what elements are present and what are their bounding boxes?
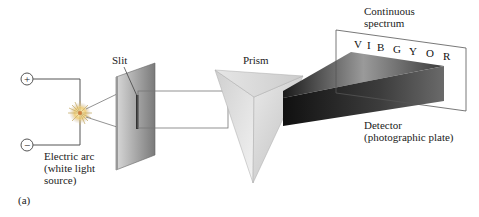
spectroscope-diagram: + − bbox=[0, 0, 479, 217]
letter-red: R bbox=[443, 50, 451, 62]
arc-label-line3: source) bbox=[44, 174, 77, 187]
panel-label: (a) bbox=[18, 194, 31, 207]
letter-blue: B bbox=[377, 41, 385, 53]
arc-label-line1: Electric arc bbox=[44, 150, 94, 162]
slit-label: Slit bbox=[112, 54, 127, 66]
letter-yellow: Y bbox=[409, 45, 418, 57]
spectrum-label-line1: Continuous bbox=[364, 5, 415, 17]
detector-label-line1: Detector bbox=[364, 119, 402, 131]
letter-green: G bbox=[393, 43, 402, 55]
plus-sign: + bbox=[24, 73, 30, 85]
dispersed-spectrum-beam bbox=[283, 52, 444, 126]
electric-arc-icon bbox=[68, 101, 92, 125]
spectrum-label-line2: spectrum bbox=[364, 17, 405, 29]
letter-violet: V bbox=[354, 38, 363, 50]
minus-sign: − bbox=[24, 139, 30, 151]
diagram-canvas: + − bbox=[0, 0, 479, 217]
slit-plate bbox=[116, 63, 155, 170]
letter-orange: O bbox=[426, 47, 435, 59]
detector-label-line2: (photographic plate) bbox=[364, 131, 454, 144]
letter-indigo: I bbox=[367, 39, 372, 51]
prism-label: Prism bbox=[243, 54, 269, 66]
